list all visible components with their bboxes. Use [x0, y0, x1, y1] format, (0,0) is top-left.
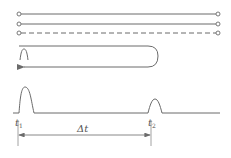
- diagram-canvas: t1 t2 Δt: [0, 0, 231, 158]
- t1-label: t1: [15, 117, 23, 129]
- fiber-line-1: [17, 12, 220, 16]
- waveform: [13, 87, 220, 113]
- fiber-line-2: [17, 22, 220, 26]
- delta-t-label: Δt: [76, 123, 89, 134]
- fiber-line-dashed: [17, 31, 220, 35]
- end-node-icon: [216, 31, 220, 35]
- small-pulse-icon: [20, 49, 28, 60]
- end-node-icon: [17, 22, 21, 26]
- return-loop: [19, 46, 158, 67]
- delta-t-dimension: Δt: [18, 120, 151, 146]
- end-node-icon: [216, 12, 220, 16]
- t2-label: t2: [148, 117, 156, 129]
- end-node-icon: [17, 12, 21, 16]
- end-node-icon: [216, 22, 220, 26]
- end-node-icon: [17, 31, 21, 35]
